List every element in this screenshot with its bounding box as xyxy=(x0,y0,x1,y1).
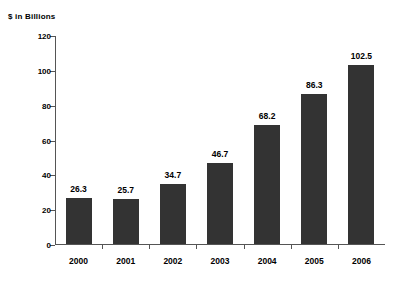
bar: 34.7 xyxy=(160,184,186,244)
y-tick-label: 60 xyxy=(42,136,51,145)
x-axis-category-label: 2002 xyxy=(163,256,182,266)
chart-title: $ in Billions xyxy=(8,12,56,21)
y-tick-label: 0 xyxy=(47,241,51,250)
y-tick-label: 120 xyxy=(38,32,51,41)
x-axis-category-label: 2003 xyxy=(211,256,230,266)
bar-value-label: 46.7 xyxy=(212,149,229,159)
x-tick-mark xyxy=(102,245,103,249)
x-axis-category-label: 2001 xyxy=(116,256,135,266)
bar: 46.7 xyxy=(207,163,233,244)
bar-value-label: 86.3 xyxy=(306,80,323,90)
x-tick-mark xyxy=(149,245,150,249)
x-tick-mark xyxy=(338,245,339,249)
bar: 68.2 xyxy=(254,125,280,244)
bar-value-label: 26.3 xyxy=(70,184,87,194)
y-tick-label: 100 xyxy=(38,66,51,75)
bar: 86.3 xyxy=(301,94,327,244)
y-tick-label: 20 xyxy=(42,206,51,215)
x-axis-category-label: 2004 xyxy=(258,256,277,266)
x-axis-category-label: 2000 xyxy=(69,256,88,266)
x-tick-mark xyxy=(196,245,197,249)
bar-value-label: 68.2 xyxy=(259,111,276,121)
y-tick-label: 40 xyxy=(42,171,51,180)
x-tick-mark xyxy=(291,245,292,249)
bar: 26.3 xyxy=(66,198,92,244)
bar-value-label: 102.5 xyxy=(351,51,372,61)
x-axis-line xyxy=(55,244,385,245)
y-tick-label: 80 xyxy=(42,101,51,110)
bar-value-label: 25.7 xyxy=(117,185,134,195)
bar: 102.5 xyxy=(348,65,374,244)
x-tick-mark xyxy=(244,245,245,249)
bar-value-label: 34.7 xyxy=(165,170,182,180)
y-axis-line xyxy=(55,36,56,245)
x-axis-category-label: 2005 xyxy=(305,256,324,266)
bar: 25.7 xyxy=(113,199,139,244)
bar-chart: $ in Billions 020406080100120 26.325.734… xyxy=(0,0,407,283)
x-axis-category-label: 2006 xyxy=(352,256,371,266)
plot-area: 020406080100120 26.325.734.746.768.286.3… xyxy=(55,36,385,245)
